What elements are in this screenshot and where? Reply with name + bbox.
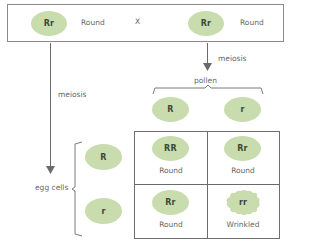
parent-left-pea: Rr <box>31 11 67 36</box>
offspring-Rr-bottom-phenotype: Round <box>135 220 207 229</box>
punnett-horizontal-divider <box>134 184 280 185</box>
parent-left-phenotype: Round <box>81 18 105 27</box>
left-meiosis-label: meiosis <box>58 90 87 99</box>
pollen-gamete-R: R <box>152 97 189 122</box>
pollen-gamete-r-label: r <box>240 105 244 114</box>
pollen-gamete-r: r <box>224 97 261 122</box>
offspring-Rr-top-genotype: Rr <box>237 144 248 153</box>
egg-gamete-R-label: R <box>100 153 106 162</box>
offspring-Rr-top-phenotype: Round <box>207 166 279 175</box>
cross-symbol: X <box>135 17 140 26</box>
offspring-Rr-bottom-pea: Rr <box>152 190 189 215</box>
egg-cells-label: egg cells <box>35 183 68 192</box>
pollen-brace-icon <box>152 85 264 95</box>
pollen-label: pollen <box>194 76 217 85</box>
offspring-Rr-top-pea: Rr <box>224 136 261 161</box>
parent-right-pea: Rr <box>188 11 224 36</box>
right-meiosis-label: meiosis <box>218 54 247 63</box>
parent-left-genotype: Rr <box>44 19 55 28</box>
egg-gamete-R: R <box>85 144 122 170</box>
egg-gamete-r-label: r <box>101 207 105 216</box>
right-arrowhead-icon <box>203 63 212 71</box>
right-meiosis-arrow-shaft <box>207 43 208 65</box>
left-meiosis-arrow-shaft <box>50 43 51 170</box>
offspring-RR-genotype: RR <box>164 144 177 153</box>
parent-right-genotype: Rr <box>201 19 212 28</box>
offspring-rr-phenotype: Wrinkled <box>207 220 279 229</box>
egg-cells-brace-icon <box>71 141 83 237</box>
parent-right-phenotype: Round <box>240 18 264 27</box>
left-arrowhead-icon <box>46 166 55 174</box>
pollen-gamete-R-label: R <box>167 105 173 114</box>
egg-gamete-r: r <box>85 198 122 224</box>
offspring-Rr-bottom-genotype: Rr <box>165 198 176 207</box>
offspring-RR-pea: RR <box>152 136 189 161</box>
offspring-rr-genotype: rr <box>224 189 262 216</box>
offspring-RR-phenotype: Round <box>135 166 207 175</box>
